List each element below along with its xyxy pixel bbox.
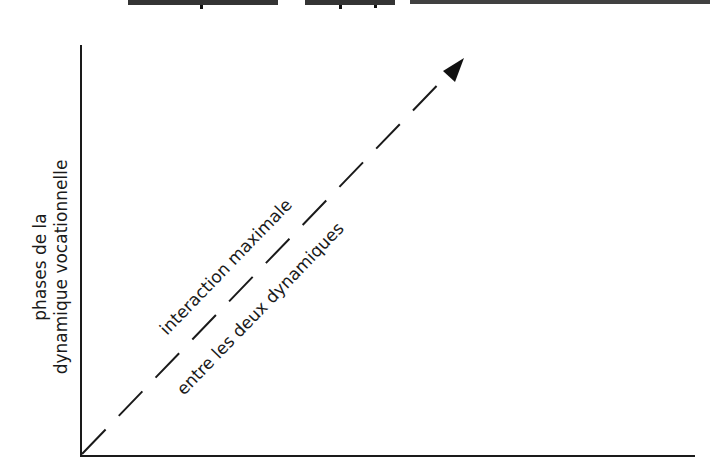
clipped-title-fragments	[128, 0, 710, 9]
arrow-label-upper: interaction maximale	[155, 194, 295, 338]
arrow-head-icon	[443, 58, 464, 82]
diagram: phases de la dynamique vocationnelle int…	[0, 0, 721, 470]
dashed-trend-line	[82, 70, 452, 454]
y-axis-label-line-1: phases de la	[30, 213, 50, 320]
y-axis-label-line-2: dynamique vocationnelle	[51, 160, 71, 375]
